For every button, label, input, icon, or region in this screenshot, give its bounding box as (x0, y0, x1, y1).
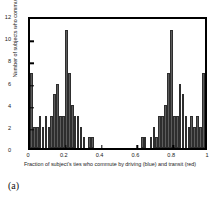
x-axis-label: Fraction of subject's ties who commute b… (0, 161, 220, 167)
x-tick-label: 1 (197, 152, 217, 158)
x-tick-mark (172, 145, 173, 149)
y-tick-mark (30, 107, 34, 108)
x-tick-mark (65, 145, 66, 149)
y-tick-mark (30, 129, 34, 130)
x-tick-label: 0.6 (125, 152, 145, 158)
histogram-plot-area (28, 17, 207, 150)
y-tick-label: 2 (0, 125, 11, 131)
histogram-bar (83, 137, 86, 148)
histogram-bars (30, 19, 205, 148)
x-tick-label: 0.8 (161, 152, 181, 158)
x-tick-label: 0.4 (90, 152, 110, 158)
x-tick-mark (137, 145, 138, 149)
y-tick-mark (30, 40, 34, 41)
x-tick-label: 0 (18, 152, 38, 158)
figure-panel: Number of subjects who commute by drivin… (0, 0, 220, 198)
x-tick-mark (101, 145, 102, 149)
y-tick-label: 4 (0, 103, 11, 109)
y-tick-label: 12 (0, 14, 11, 20)
y-axis-label: Number of subjects who commute by drivin… (12, 0, 24, 94)
y-tick-label: 6 (0, 81, 11, 87)
y-tick-mark (30, 63, 34, 64)
x-tick-label: 0.2 (54, 152, 74, 158)
histogram-bar (144, 137, 147, 148)
histogram-bar (91, 137, 94, 148)
y-tick-label: 0 (0, 147, 11, 153)
y-tick-label: 8 (0, 58, 11, 64)
y-tick-mark (30, 85, 34, 86)
histogram-bar (202, 73, 205, 148)
y-tick-label: 10 (0, 36, 11, 42)
figure-caption: (a) (8, 180, 19, 191)
